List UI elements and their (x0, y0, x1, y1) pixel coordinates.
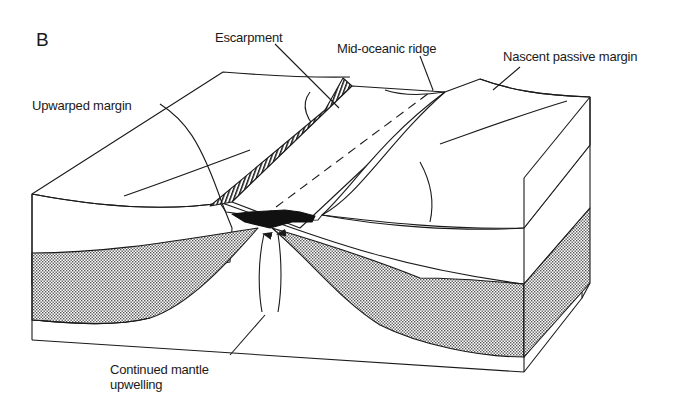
label-nascent-passive-margin: Nascent passive margin (503, 49, 637, 64)
left-block-front-face (32, 194, 258, 340)
label-upwarped-margin: Upwarped margin (32, 98, 132, 113)
label-escarpment: Escarpment (215, 30, 282, 45)
label-mantle-upwelling-line1: Continued mantle (110, 362, 209, 377)
panel-letter: B (36, 30, 49, 50)
mantle-upwelling-arrows (259, 234, 281, 312)
label-mid-oceanic-ridge: Mid-oceanic ridge (337, 41, 436, 56)
label-mantle-upwelling-line2: upwelling (110, 377, 162, 392)
